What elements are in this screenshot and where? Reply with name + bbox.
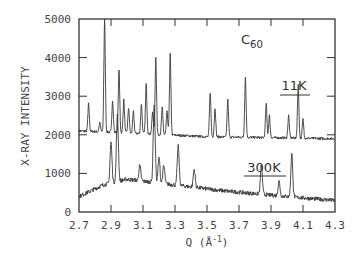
- x-tick-labels: 2.72.93.13.33.53.73.94.14.3: [69, 219, 345, 232]
- y-axis-label: X-RAY INTENSITY: [19, 66, 32, 166]
- trace-300k: [79, 105, 334, 202]
- x-tick-label: 3.9: [261, 219, 281, 232]
- y-tick-labels: 010002000300040005000: [45, 13, 72, 219]
- x-tick-label: 2.7: [69, 219, 89, 232]
- data-traces: [79, 19, 334, 201]
- y-tick-label: 1000: [45, 167, 72, 180]
- x-tick-label: 3.5: [197, 219, 217, 232]
- y-tick-label: 5000: [45, 13, 72, 26]
- y-tick-label: 3000: [45, 90, 72, 103]
- y-tick-label: 4000: [45, 52, 72, 65]
- x-tick-label: 4.1: [293, 219, 313, 232]
- x-tick-label: 3.3: [165, 219, 185, 232]
- y-tick-label: 0: [64, 206, 71, 219]
- series-label-300k: 300K: [247, 160, 281, 175]
- x-tick-label: 3.1: [133, 219, 153, 232]
- xrd-chart: 2.72.93.13.33.53.73.94.14.3 010002000300…: [0, 0, 362, 257]
- x-axis-label: Q (Å-1): [186, 235, 229, 249]
- x-tick-label: 2.9: [101, 219, 121, 232]
- series-label-11k: 11K: [281, 78, 307, 93]
- chart-title: C60: [241, 32, 263, 50]
- y-tick-label: 2000: [45, 129, 72, 142]
- x-tick-label: 4.3: [325, 219, 345, 232]
- x-tick-label: 3.7: [229, 219, 249, 232]
